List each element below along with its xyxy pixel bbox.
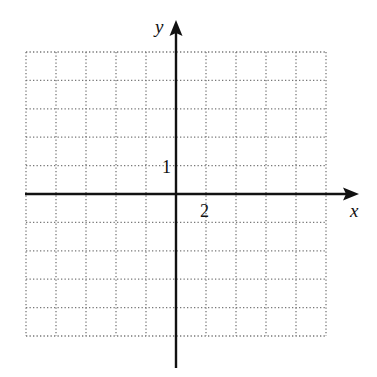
coordinate-plane: x y 2 1: [0, 0, 377, 377]
x-tick-label: 2: [200, 201, 209, 221]
x-axis-label: x: [349, 200, 359, 221]
y-axis-label: y: [153, 16, 164, 37]
y-tick-label: 1: [162, 157, 171, 177]
